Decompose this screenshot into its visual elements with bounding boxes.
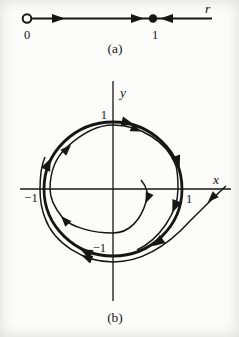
flow-arrow-icon xyxy=(142,192,154,205)
x-tick-plus-one: 1 xyxy=(186,192,192,206)
x-axis-label: x xyxy=(212,172,219,187)
flow-arrow-right-icon xyxy=(52,14,65,23)
unstable-fixed-point-open-circle xyxy=(23,14,32,23)
figure-a-phase-line: r 0 1 (a) xyxy=(23,1,212,56)
y-axis-label: y xyxy=(118,85,126,100)
inner-trajectory-spiral xyxy=(50,125,178,250)
r-axis-label: r xyxy=(205,1,211,16)
stable-fixed-point-dot xyxy=(149,14,157,22)
phase-portrait-figure: r 0 1 (a) y x 1 −1 1 −1 xyxy=(0,0,239,337)
outer-trajectory-spiral xyxy=(40,157,226,262)
flow-arrow-left-icon xyxy=(160,14,173,23)
flow-arrow-right-icon xyxy=(131,14,144,23)
caption-a: (a) xyxy=(108,41,123,56)
x-tick-minus-one: −1 xyxy=(24,191,37,205)
figure-b-phase-portrait: y x 1 −1 1 −1 xyxy=(20,81,231,325)
caption-b: (b) xyxy=(107,310,123,325)
y-tick-plus-one: 1 xyxy=(101,108,107,122)
figure-page: r 0 1 (a) y x 1 −1 1 −1 xyxy=(0,0,239,337)
tick-label-one: 1 xyxy=(152,28,158,42)
flow-arrow-icon xyxy=(205,191,219,205)
tick-label-zero: 0 xyxy=(24,28,30,42)
